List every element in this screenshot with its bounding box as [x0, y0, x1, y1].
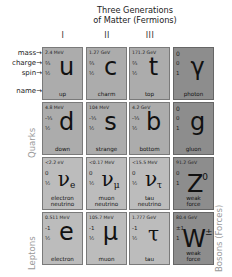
symbol: W± [182, 219, 213, 252]
spin: ½ [89, 180, 94, 186]
charge: ⅔ [132, 60, 137, 66]
name: electronneutrino [43, 195, 82, 207]
spin: 1 [176, 125, 180, 131]
symbol: νe [51, 166, 82, 198]
mass: <15.5 MeV [132, 160, 157, 165]
name: weakforce [174, 250, 213, 262]
name: gluon [174, 146, 213, 152]
symbol: g [182, 109, 213, 135]
legend-mass: mass→ [2, 49, 42, 57]
particle-z-boson: 91.2 GeV 0 1 Z0 weakforce [173, 157, 214, 210]
particle-tau: 1.777 GeV -1 ½ τ tau [129, 212, 170, 265]
title-line-1: Three Generations [40, 5, 230, 15]
particle-muon-neutrino: <0.17 MeV 0 ½ νμ muonneutrino [86, 157, 127, 210]
leptons-label: Leptons [27, 236, 37, 270]
mass: 0 [176, 105, 180, 112]
particle-muon: 105.7 MeV -1 ½ μ muon [86, 212, 127, 265]
spin: ½ [45, 235, 50, 241]
particle-electron-neutrino: <2.2 eV 0 ½ νe electronneutrino [42, 157, 83, 210]
particle-top: 171.2 GeV ⅔ ½ t top [129, 47, 170, 100]
spin: ½ [132, 180, 137, 186]
name: photon [174, 91, 213, 97]
particle-w-boson: 80.4 GeV ±1 1 W± weakforce [173, 212, 214, 265]
charge: 0 [176, 170, 180, 176]
symbol: νμ [95, 166, 126, 198]
charge: ⅔ [45, 60, 50, 66]
particle-charm: 1.27 GeV ⅔ ½ c charm [86, 47, 127, 100]
symbol: d [51, 109, 82, 135]
name: muonneutrino [87, 195, 126, 207]
mass: <0.17 MeV [89, 160, 114, 165]
particle-photon: 0 0 1 γ photon [173, 47, 214, 100]
spin: 1 [176, 180, 180, 186]
generation-2-label: II [86, 31, 128, 40]
spin: ½ [45, 180, 50, 186]
generation-3-label: III [129, 31, 171, 40]
symbol: s [95, 109, 126, 135]
chart-title: Three Generations of Matter (Fermions) [40, 5, 230, 25]
name: muon [87, 256, 126, 262]
name: strange [87, 146, 126, 152]
name: top [130, 91, 169, 97]
particle-tau-neutrino: <15.5 MeV 0 ½ ντ tauneutrino [129, 157, 170, 210]
spin: 1 [176, 235, 180, 241]
symbol: τ [138, 221, 169, 247]
quarks-label: Quarks [27, 128, 37, 158]
name: bottom [130, 146, 169, 152]
spin: ½ [89, 235, 94, 241]
particle-gluon: 0 0 1 g gluon [173, 102, 214, 155]
generation-1-label: I [42, 31, 84, 40]
spin: ½ [45, 125, 50, 131]
particle-bottom: 4.2 GeV -⅓ ½ b bottom [129, 102, 170, 155]
symbol: b [138, 109, 169, 135]
charge: 0 [89, 170, 93, 176]
mass: 1.777 GeV [132, 215, 156, 220]
spin: ½ [45, 70, 50, 76]
mass: <2.2 eV [45, 160, 64, 165]
charge: -1 [89, 225, 94, 231]
symbol: ντ [138, 166, 169, 198]
name: weakforce [174, 195, 213, 207]
name: up [43, 91, 82, 97]
charge: -1 [45, 225, 50, 231]
particle-down: 4.8 MeV -⅓ ½ d down [42, 102, 83, 155]
name: electron [43, 256, 82, 262]
spin: ½ [89, 70, 94, 76]
name: down [43, 146, 82, 152]
mass: 0 [176, 50, 180, 57]
symbol: μ [95, 219, 126, 245]
spin: 1 [176, 70, 180, 76]
charge: 0 [45, 170, 49, 176]
charge: 0 [176, 60, 180, 66]
symbol: u [51, 54, 82, 80]
particle-electron: 0.511 MeV -1 ½ e electron [42, 212, 83, 265]
spin: ½ [89, 125, 94, 131]
charge: ⅔ [89, 60, 94, 66]
spin: ½ [132, 125, 137, 131]
charge: -1 [132, 225, 137, 231]
legend-spin: spin→ [2, 69, 42, 77]
spin: ½ [132, 235, 137, 241]
name: tau [130, 256, 169, 262]
particle-strange: 104 MeV -⅓ ½ s strange [86, 102, 127, 155]
symbol: γ [182, 54, 213, 80]
symbol: c [95, 54, 126, 80]
symbol: t [138, 54, 169, 80]
name: tauneutrino [130, 195, 169, 207]
charge: 0 [132, 170, 136, 176]
symbol: Z0 [182, 164, 213, 197]
spin: ½ [132, 70, 137, 76]
particle-up: 2.4 MeV ⅔ ½ u up [42, 47, 83, 100]
charge: 0 [176, 115, 180, 121]
legend-charge: charge→ [2, 59, 42, 67]
name: charm [87, 91, 126, 97]
legend-name: name→ [2, 87, 42, 95]
title-line-2: of Matter (Fermions) [40, 15, 230, 25]
symbol: e [51, 219, 82, 245]
bosons-label: Bosons (Forces) [214, 205, 224, 272]
